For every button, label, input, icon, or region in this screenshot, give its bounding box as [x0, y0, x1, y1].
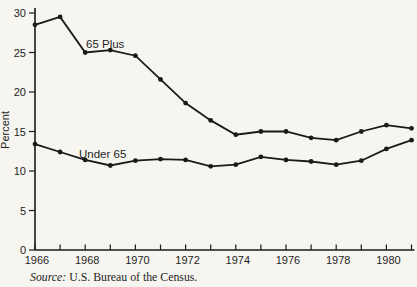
y-tick-label: 20 — [14, 86, 26, 98]
poverty-rate-line-chart: 0510152025301966196819701972197419761978… — [0, 0, 417, 287]
series-label-under-65: Under 65 — [79, 148, 126, 160]
x-tick-label: 1968 — [75, 254, 99, 266]
y-tick-label: 5 — [20, 205, 26, 217]
y-tick-label: 10 — [14, 165, 26, 177]
data-point-under-65 — [233, 162, 238, 167]
data-point-65-plus — [409, 126, 414, 131]
data-point-under-65 — [359, 158, 364, 163]
scanned-chart-page: 0510152025301966196819701972197419761978… — [0, 0, 417, 287]
data-point-65-plus — [334, 138, 339, 143]
x-tick-label: 1970 — [125, 254, 149, 266]
x-tick-label: 1966 — [25, 254, 49, 266]
series-label-65-plus: 65 Plus — [86, 38, 125, 50]
data-point-65-plus — [83, 50, 88, 55]
y-tick-label: 15 — [14, 126, 26, 138]
x-tick-label: 1974 — [226, 254, 250, 266]
data-point-65-plus — [183, 101, 188, 106]
data-point-under-65 — [108, 163, 113, 168]
data-point-under-65 — [208, 164, 213, 169]
data-point-65-plus — [133, 53, 138, 58]
data-point-under-65 — [58, 150, 63, 155]
x-tick-label: 1972 — [175, 254, 199, 266]
data-point-under-65 — [183, 158, 188, 163]
data-point-65-plus — [33, 22, 38, 27]
series-65-plus-line — [35, 17, 412, 140]
data-point-65-plus — [233, 132, 238, 137]
data-point-under-65 — [133, 158, 138, 163]
data-point-65-plus — [309, 135, 314, 140]
data-point-65-plus — [284, 129, 289, 134]
data-point-under-65 — [409, 138, 414, 143]
data-point-65-plus — [58, 15, 63, 20]
data-point-65-plus — [208, 118, 213, 123]
x-tick-label: 1976 — [276, 254, 300, 266]
y-tick-label: 25 — [14, 47, 26, 59]
data-point-under-65 — [284, 158, 289, 163]
source-note-label: Source: — [30, 270, 66, 284]
data-point-under-65 — [259, 154, 264, 159]
axes-group: 0510152025301966196819701972197419761978… — [14, 7, 415, 266]
data-point-65-plus — [158, 77, 163, 82]
data-point-under-65 — [33, 142, 38, 147]
data-point-65-plus — [384, 123, 389, 128]
data-point-65-plus — [259, 129, 264, 134]
data-point-under-65 — [309, 159, 314, 164]
x-tick-label: 1980 — [376, 254, 400, 266]
source-note-text: U.S. Bureau of the Census. — [69, 270, 197, 284]
data-point-under-65 — [158, 157, 163, 162]
x-tick-label: 1978 — [326, 254, 350, 266]
data-point-65-plus — [359, 129, 364, 134]
y-tick-label: 30 — [14, 7, 26, 19]
data-point-under-65 — [384, 147, 389, 152]
source-note: Source: U.S. Bureau of the Census. — [30, 270, 197, 284]
y-axis-title: Percent — [0, 111, 11, 149]
data-point-under-65 — [334, 162, 339, 167]
